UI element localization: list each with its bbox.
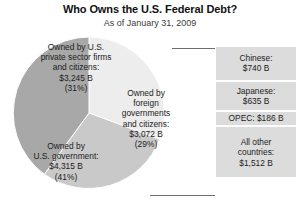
callout-line-top	[172, 48, 215, 49]
pie-label-foreign-line3: governments	[122, 108, 170, 118]
pie-label-us-private: Owned by U.S. private sector firms and c…	[24, 42, 128, 93]
pie-label-foreign-line1: Owned by	[127, 88, 165, 98]
pie-label-us-private-percent: (31%)	[65, 83, 87, 93]
breakdown-item-other: All other countries: $1,512 B	[216, 127, 296, 177]
pie-label-foreign-line2: foreign	[133, 98, 159, 108]
pie-label-us-government-value: $4,315 B	[49, 161, 83, 171]
pie-label-us-private-value: $3,245 B	[59, 73, 93, 83]
pie-chart: Owned by U.S. private sector firms and c…	[6, 33, 196, 205]
pie-label-us-government-line1: Owned by	[47, 141, 85, 151]
breakdown-item-other-label: All other	[241, 137, 272, 147]
breakdown-item-chinese: Chinese: $740 B	[216, 47, 296, 80]
pie-label-us-private-line2: private sector firms	[41, 52, 112, 62]
breakdown-item-japanese: Japanese: $635 B	[216, 82, 296, 110]
page-title: Who Owns the U.S. Federal Debt?	[0, 3, 300, 15]
callout-line-bottom	[150, 195, 215, 196]
pie-label-us-government-percent: (41%)	[55, 172, 77, 182]
pie-label-foreign-percent: (29%)	[135, 139, 157, 149]
breakdown-item-other-value: $1,512 B	[239, 158, 273, 168]
breakdown-item-chinese-value: $740 B	[243, 63, 270, 73]
pie-label-foreign: Owned by foreign governments and citizen…	[110, 88, 182, 149]
pie-label-us-private-line1: Owned by U.S.	[48, 42, 104, 52]
pie-label-foreign-line4: and citizens:	[123, 119, 170, 129]
breakdown-item-other-label2: countries:	[238, 147, 274, 157]
breakdown-item-opec: OPEC: $186 B	[216, 112, 296, 125]
pie-label-us-government-line2: U.S. government:	[33, 151, 98, 161]
foreign-breakdown-list: Chinese: $740 B Japanese: $635 B OPEC: $…	[216, 47, 296, 179]
breakdown-item-chinese-label: Chinese:	[239, 53, 272, 63]
pie-label-us-private-line3: and citizens:	[53, 62, 100, 72]
breakdown-item-japanese-label: Japanese:	[237, 86, 276, 96]
breakdown-item-japanese-value: $635 B	[243, 96, 270, 106]
page-subtitle: As of January 31, 2009	[0, 18, 300, 28]
breakdown-item-opec-label: OPEC: $186 B	[229, 113, 284, 123]
pie-label-foreign-value: $3,072 B	[129, 129, 163, 139]
chart-figure: Who Owns the U.S. Federal Debt? As of Ja…	[0, 0, 300, 217]
pie-label-us-government: Owned by U.S. government: $4,315 B (41%)	[12, 141, 120, 182]
